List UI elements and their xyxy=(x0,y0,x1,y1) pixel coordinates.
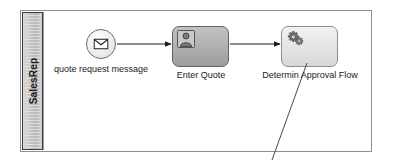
gears-icon xyxy=(286,30,304,48)
user-icon xyxy=(177,30,195,48)
start-event-label: quote request message xyxy=(48,64,154,74)
lane-label: SalesRep xyxy=(27,58,38,105)
envelope-icon xyxy=(94,39,109,50)
task-enter-quote[interactable] xyxy=(172,26,229,67)
task-determin-approval-flow[interactable] xyxy=(281,26,338,67)
start-event-message[interactable] xyxy=(86,29,116,59)
lane-divider xyxy=(43,12,44,150)
task-enter-quote-label: Enter Quote xyxy=(163,70,239,80)
diagram-canvas: SalesRep xyxy=(0,0,394,163)
lane-header-salesrep[interactable]: SalesRep xyxy=(22,12,43,150)
task-determin-approval-flow-label: Determin Approval Flow xyxy=(255,70,365,80)
